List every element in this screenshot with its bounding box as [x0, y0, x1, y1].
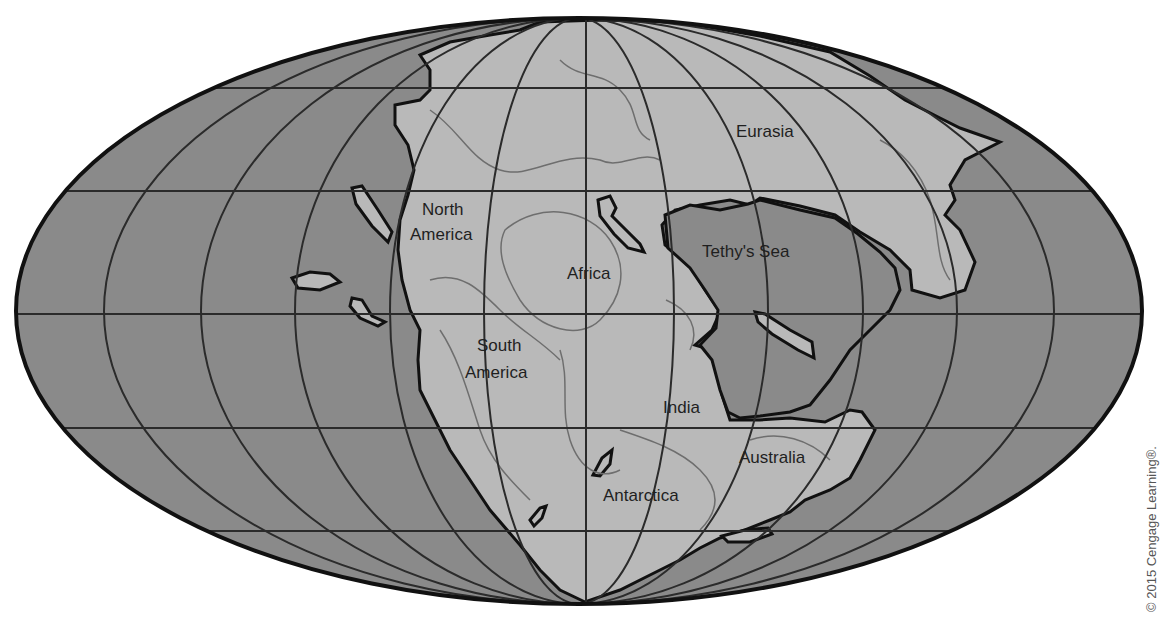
label-south-america-line2: America	[465, 363, 528, 382]
label-south-america-line1: South	[477, 336, 521, 355]
label-north-america-line2: America	[410, 225, 473, 244]
label-africa: Africa	[567, 264, 611, 283]
copyright-notice: © 2015 Cengage Learning®.	[1144, 446, 1159, 612]
label-tethys-sea: Tethy's Sea	[702, 242, 790, 261]
label-north-america-line1: North	[422, 200, 464, 219]
label-india: India	[663, 398, 700, 417]
label-antarctica: Antarctica	[603, 486, 679, 505]
label-australia: Australia	[739, 448, 806, 467]
world-map: Eurasia North America Africa Tethy's Sea…	[0, 0, 1171, 630]
label-eurasia: Eurasia	[736, 122, 794, 141]
